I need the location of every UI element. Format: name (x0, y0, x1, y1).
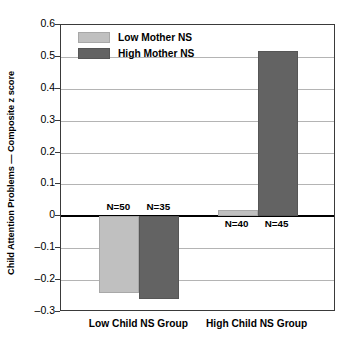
bar (218, 210, 258, 216)
y-tick-label: 0 (11, 208, 55, 220)
legend-label-low-mother-ns: Low Mother NS (118, 32, 192, 43)
y-tick-label: 0.3 (11, 113, 55, 125)
plot-area (60, 24, 335, 311)
bar (258, 51, 298, 217)
bar (139, 216, 179, 299)
y-tick-label: –0.3 (11, 304, 55, 316)
bar-count-label: N=35 (131, 201, 185, 212)
chart-figure: Child Attention Problems — Composite z s… (0, 0, 350, 346)
legend-swatch-low-mother-ns (78, 32, 110, 43)
y-tick-label: –0.1 (11, 240, 55, 252)
legend-item: Low Mother NS (78, 30, 194, 44)
x-category-label: High Child NS Group (182, 318, 332, 329)
legend-label-high-mother-ns: High Mother NS (118, 48, 194, 59)
y-tick-label: 0.5 (11, 49, 55, 61)
y-tick-mark (55, 311, 60, 312)
y-tick-label: 0.2 (11, 145, 55, 157)
y-tick-label: –0.2 (11, 272, 55, 284)
legend-swatch-high-mother-ns (78, 48, 110, 59)
bar-count-label: N=45 (250, 218, 304, 229)
legend: Low Mother NS High Mother NS (78, 30, 194, 62)
y-tick-label: 0.1 (11, 176, 55, 188)
y-tick-label: 0.6 (11, 17, 55, 29)
legend-item: High Mother NS (78, 46, 194, 60)
bar (99, 216, 139, 293)
y-tick-label: 0.4 (11, 81, 55, 93)
